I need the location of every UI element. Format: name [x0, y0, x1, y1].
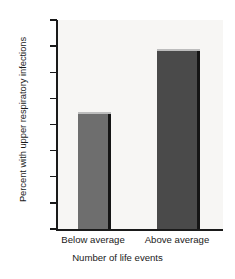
bar-body: [78, 114, 108, 229]
bar-group: [57, 20, 223, 229]
chart-figure: Percent with upper respiratory infection…: [0, 0, 235, 279]
x-axis-line: [56, 229, 223, 231]
bar-top-edge: [157, 49, 200, 51]
bar: [157, 51, 197, 229]
y-tick: [50, 98, 57, 99]
bar-side-edge: [108, 114, 111, 229]
y-tick: [50, 72, 57, 73]
y-tick: [50, 19, 57, 20]
bar-side-edge: [197, 51, 200, 229]
y-tick: [50, 124, 57, 125]
y-tick: [50, 45, 57, 46]
bar: [78, 114, 108, 229]
y-tick: [50, 150, 57, 151]
x-axis-title: Number of life events: [0, 252, 235, 263]
y-axis-title: Percent with upper respiratory infection…: [17, 10, 28, 230]
y-tick: [50, 228, 57, 229]
y-tick: [50, 202, 57, 203]
x-tick-label: Above average: [117, 234, 235, 245]
bar-body: [157, 51, 197, 229]
bar-top-edge: [78, 112, 111, 114]
y-tick: [50, 176, 57, 177]
